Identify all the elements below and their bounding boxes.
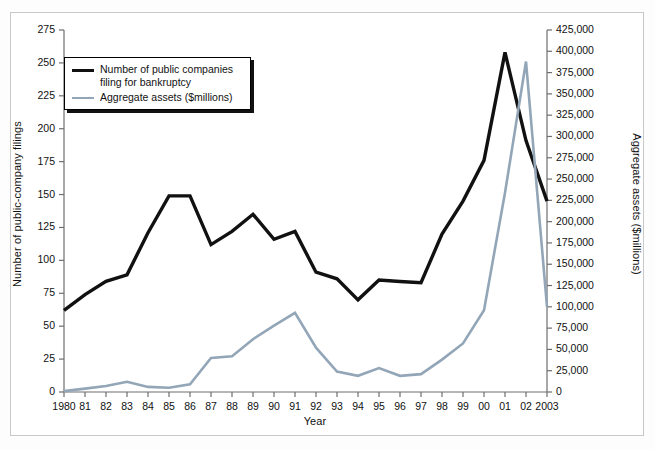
x-tick-label: 2003 — [527, 400, 567, 412]
y-tick-label-right: 200,000 — [556, 215, 616, 227]
y-tick-label-right: 125,000 — [556, 279, 616, 291]
y-tick-label-right: 175,000 — [556, 236, 616, 248]
y-tick-label-right: 375,000 — [556, 66, 616, 78]
y-tick-label-left: 150 — [15, 188, 55, 200]
y-tick-label-left: 125 — [15, 220, 55, 232]
legend-entry-filings: Number of public companies filing for ba… — [72, 63, 233, 88]
legend-label-filings: Number of public companies filing for ba… — [100, 63, 233, 88]
y-tick-label-left: 225 — [15, 89, 55, 101]
legend-entry-assets: Aggregate assets ($millions) — [72, 91, 232, 104]
y-tick-label-left: 0 — [15, 385, 55, 397]
legend-label-assets: Aggregate assets ($millions) — [100, 91, 232, 104]
y-tick-label-right: 50,000 — [556, 342, 616, 354]
series-line-assets — [64, 62, 547, 392]
y-tick-label-left: 50 — [15, 319, 55, 331]
y-tick-label-right: 75,000 — [556, 321, 616, 333]
x-axis-title: Year — [230, 415, 400, 427]
y-tick-label-right: 350,000 — [556, 87, 616, 99]
y-tick-label-right: 300,000 — [556, 129, 616, 141]
y-tick-label-left: 275 — [15, 23, 55, 35]
y-tick-label-left: 75 — [15, 286, 55, 298]
y-tick-label-right: 275,000 — [556, 151, 616, 163]
legend-swatch-black-icon — [72, 69, 94, 72]
y-tick-label-right: 325,000 — [556, 108, 616, 120]
y-tick-label-right: 0 — [556, 385, 616, 397]
y-tick-label-left: 250 — [15, 56, 55, 68]
legend-swatch-blue-icon — [72, 97, 94, 99]
y-axis-title-left: Number of public-company filings — [11, 114, 23, 294]
y-tick-label-left: 25 — [15, 352, 55, 364]
y-tick-label-right: 150,000 — [556, 257, 616, 269]
y-tick-label-right: 425,000 — [556, 23, 616, 35]
y-tick-label-left: 175 — [15, 155, 55, 167]
y-tick-label-left: 200 — [15, 122, 55, 134]
legend-label-filings-line2: filing for bankruptcy — [100, 76, 191, 88]
y-axis-title-right: Aggregate assets ($millions) — [631, 114, 643, 294]
y-tick-label-left: 100 — [15, 253, 55, 265]
y-tick-label-right: 250,000 — [556, 172, 616, 184]
legend-label-filings-line1: Number of public companies — [100, 63, 233, 75]
y-tick-label-right: 400,000 — [556, 44, 616, 56]
y-tick-label-right: 25,000 — [556, 364, 616, 376]
y-tick-label-right: 100,000 — [556, 300, 616, 312]
chart-legend: Number of public companies filing for ba… — [64, 57, 251, 110]
y-tick-label-right: 225,000 — [556, 193, 616, 205]
chart-figure: Number of public-company filings Aggrega… — [0, 0, 655, 449]
